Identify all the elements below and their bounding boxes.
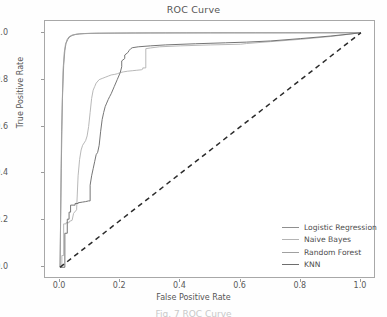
x-tick-mark	[300, 279, 301, 282]
legend: Logistic RegressionNaive BayesRandom For…	[282, 221, 377, 271]
legend-swatch-icon	[282, 252, 299, 253]
x-axis-label: False Positive Rate	[0, 293, 387, 302]
x-tick-mark	[360, 279, 361, 282]
legend-swatch-icon	[282, 264, 299, 265]
y-tick-label: 0.0	[0, 262, 8, 271]
legend-item-label: Naive Bayes	[304, 235, 351, 244]
legend-item-logistic-regression[interactable]: Logistic Regression	[282, 221, 377, 234]
x-tick-label: 0.8	[280, 281, 320, 290]
legend-item-label: Random Forest	[304, 248, 361, 257]
legend-item-label: Logistic Regression	[304, 223, 377, 232]
y-tick-label: 0.8	[0, 74, 8, 83]
y-tick-label: 0.6	[0, 121, 8, 130]
x-tick-label: 1.0	[340, 281, 380, 290]
figure-roc-curve: ROC Curve True Positive Rate False Posit…	[0, 0, 387, 317]
x-tick-mark	[179, 279, 180, 282]
x-tick-label: 0.0	[39, 281, 79, 290]
y-axis-label: True Positive Rate	[16, 23, 25, 163]
x-tick-label: 0.4	[159, 281, 199, 290]
legend-swatch-icon	[282, 239, 299, 240]
legend-item-naive-bayes[interactable]: Naive Bayes	[282, 234, 377, 247]
legend-item-random-forest[interactable]: Random Forest	[282, 246, 377, 259]
legend-item-label: KNN	[304, 260, 320, 269]
y-tick-label: 0.4	[0, 168, 8, 177]
y-tick-label: 1.0	[0, 27, 8, 36]
legend-item-knn[interactable]: KNN	[282, 259, 377, 272]
x-tick-mark	[59, 279, 60, 282]
x-tick-mark	[119, 279, 120, 282]
y-tick-label: 0.2	[0, 215, 8, 224]
x-tick-mark	[240, 279, 241, 282]
x-tick-label: 0.6	[220, 281, 260, 290]
chart-title: ROC Curve	[0, 4, 387, 15]
figure-caption: Fig. 7 ROC Curve	[0, 309, 387, 317]
legend-swatch-icon	[282, 227, 299, 228]
x-tick-label: 0.2	[99, 281, 139, 290]
